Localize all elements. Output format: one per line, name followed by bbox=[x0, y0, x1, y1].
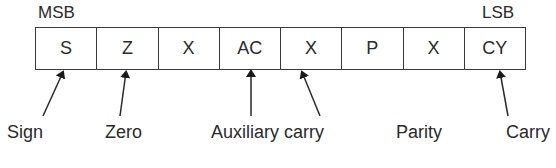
arrow-carry-icon bbox=[500, 72, 508, 116]
arrow-zero-icon bbox=[120, 72, 126, 116]
arrow-sign-icon bbox=[43, 72, 63, 116]
flag-label-sign: Sign bbox=[7, 122, 43, 143]
flag-label-auxiliary-carry: Auxiliary carry bbox=[211, 122, 324, 143]
arrow-parity-icon bbox=[302, 72, 320, 116]
flag-label-zero: Zero bbox=[105, 122, 142, 143]
flag-label-parity: Parity bbox=[396, 122, 442, 143]
flag-label-carry: Carry bbox=[506, 122, 550, 143]
